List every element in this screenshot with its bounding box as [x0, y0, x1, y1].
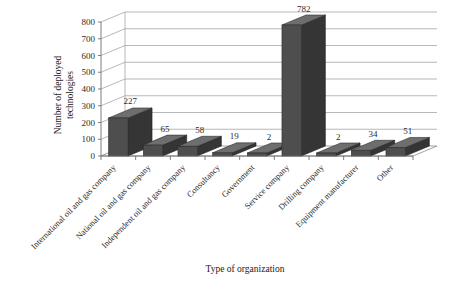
gridline-depth-connector — [101, 96, 125, 106]
gridline-depth-connector — [101, 46, 125, 56]
y-tick-label: 700 — [82, 34, 96, 44]
bar-value-labels: 227655819278223451 — [124, 4, 413, 142]
gridline-depth-connector — [101, 29, 125, 39]
bar-value-label: 34 — [369, 129, 379, 139]
y-axis-title-line1: Number of deployed — [53, 55, 63, 134]
x-category-labels: International oil and gas companyNationa… — [29, 162, 395, 251]
gridline-depth-connector — [101, 62, 125, 72]
bar-value-label: 2 — [336, 132, 341, 142]
bar-value-label: 65 — [161, 124, 171, 134]
y-tick-label: 600 — [82, 51, 96, 61]
x-category-label: Other — [374, 162, 395, 183]
bar-value-label: 2 — [267, 132, 272, 142]
x-axis — [101, 156, 413, 160]
x-axis-title: Type of organization — [206, 264, 285, 274]
bar-chart-3d: 0100200300400500600700800 22765581927822… — [0, 0, 461, 290]
y-tick-labels: 0100200300400500600700800 — [82, 17, 96, 161]
bar-front-face — [213, 153, 232, 156]
bar-front-face — [143, 145, 162, 156]
bar-side-face — [301, 15, 325, 156]
bar-value-label: 782 — [297, 4, 311, 14]
bar-value-label: 58 — [195, 125, 205, 135]
y-tick-label: 100 — [82, 134, 96, 144]
y-tick-label: 300 — [82, 101, 96, 111]
bar-front-face — [178, 146, 197, 156]
x-category-label: Consultancy — [185, 162, 223, 200]
gridline-depth-connector — [101, 12, 125, 22]
chart-container: 0100200300400500600700800 22765581927822… — [0, 0, 461, 290]
bar-front-face — [351, 150, 370, 156]
bar-value-label: 227 — [124, 96, 138, 106]
bar-front-face — [386, 147, 405, 156]
y-tick-label: 400 — [82, 84, 96, 94]
x-category-label: Equipment manufacturer — [293, 162, 360, 229]
bar-front-face — [109, 118, 128, 156]
y-tick-label: 500 — [82, 67, 96, 77]
bar — [282, 15, 325, 156]
y-tick-label: 800 — [82, 17, 96, 27]
bar-value-label: 51 — [403, 126, 412, 136]
y-axis-title-line2: technologies — [65, 71, 75, 119]
bar-front-face — [282, 25, 301, 156]
y-tick-label: 0 — [91, 151, 96, 161]
bar-value-label: 19 — [230, 131, 240, 141]
y-tick-label: 200 — [82, 118, 96, 128]
gridline-depth-connector — [101, 79, 125, 89]
